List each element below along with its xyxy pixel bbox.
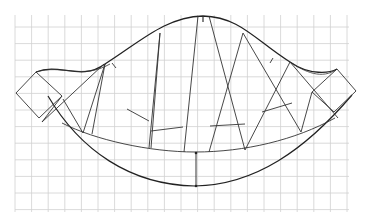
cross-line xyxy=(127,109,149,121)
panel-edge xyxy=(42,96,62,122)
panel-edge xyxy=(301,92,312,132)
panel-edge xyxy=(184,16,198,152)
outer-bottom-curve xyxy=(48,95,352,186)
cross-line xyxy=(151,127,183,131)
pattern-diagram xyxy=(0,0,373,220)
grid xyxy=(15,15,349,212)
right-box xyxy=(312,69,356,112)
dimension-point xyxy=(195,152,198,155)
left-notch-mark xyxy=(112,63,116,68)
panel-edge xyxy=(243,33,301,132)
dimension-point xyxy=(195,185,198,188)
pattern-shapes xyxy=(16,16,356,187)
cross-line xyxy=(210,124,245,126)
diagram-canvas xyxy=(0,0,373,220)
inner-bottom-curve xyxy=(62,118,335,152)
left-box xyxy=(16,72,62,118)
